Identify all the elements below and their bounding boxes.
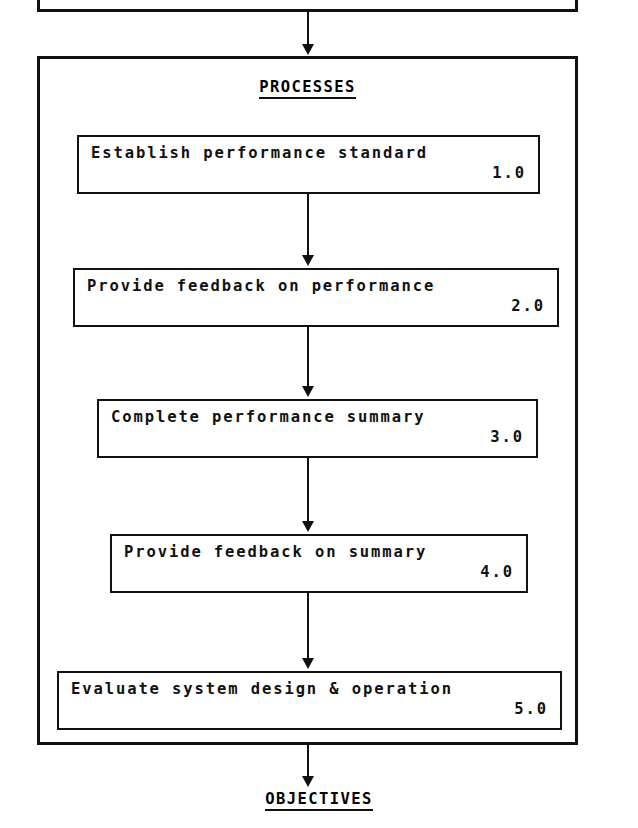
connector-step1-to-step2 [307, 194, 309, 256]
connector-top-to-processes [307, 12, 309, 45]
process-box-4[interactable]: Provide feedback on summary 4.0 [110, 534, 528, 593]
process-box-1-number: 1.0 [91, 163, 528, 183]
process-box-5[interactable]: Evaluate system design & operation 5.0 [57, 671, 562, 730]
clipped-top-box: pppp jj qq gg yy [37, 0, 578, 12]
connector-step4-to-step5 [307, 593, 309, 659]
arrowhead-processes-to-objectives [302, 776, 314, 787]
process-box-2-number: 2.0 [87, 296, 547, 316]
processes-header: PROCESSES [40, 78, 575, 96]
arrowhead-step2-to-step3 [302, 386, 314, 397]
process-box-3-label: Complete performance summary [111, 408, 526, 427]
process-box-3-number: 3.0 [111, 427, 526, 447]
processes-header-text: PROCESSES [259, 78, 356, 99]
connector-step2-to-step3 [307, 327, 309, 389]
process-box-2[interactable]: Provide feedback on performance 2.0 [73, 268, 559, 327]
process-box-4-label: Provide feedback on summary [124, 543, 516, 562]
process-box-1[interactable]: Establish performance standard 1.0 [77, 135, 540, 194]
process-box-3[interactable]: Complete performance summary 3.0 [97, 399, 538, 458]
process-box-2-label: Provide feedback on performance [87, 277, 547, 296]
process-box-5-number: 5.0 [71, 699, 550, 719]
process-box-1-label: Establish performance standard [91, 144, 528, 163]
objectives-label: OBJECTIVES [265, 790, 372, 811]
arrowhead-step1-to-step2 [302, 255, 314, 266]
arrowhead-step4-to-step5 [302, 658, 314, 669]
arrowhead-step3-to-step4 [302, 521, 314, 532]
process-box-5-label: Evaluate system design & operation [71, 680, 550, 699]
process-box-4-number: 4.0 [124, 562, 516, 582]
connector-processes-to-objectives [307, 745, 309, 777]
connector-step3-to-step4 [307, 458, 309, 522]
objectives-footer: OBJECTIVES [0, 790, 638, 808]
flowchart-canvas: pppp jj qq gg yy PROCESSES Establish per… [0, 0, 638, 828]
arrowhead-top-to-processes [302, 44, 314, 55]
